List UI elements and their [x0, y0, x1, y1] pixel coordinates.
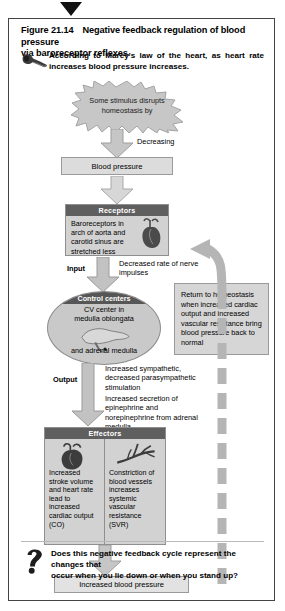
question-text: Does this negative feedback cycle repres…: [51, 548, 265, 581]
effectors-column-heart: Increased stroke volume and heart rate l…: [45, 439, 105, 544]
stimulus-starburst: Some stimulus disrupts homeostasis by: [71, 81, 183, 133]
marey-law-text: According to Marey's law of the heart, a…: [49, 51, 264, 72]
effectors-column-vessel: Constriction of blood vessels increases …: [105, 439, 165, 544]
control-centers-header: Control centers: [48, 292, 160, 304]
stimulus-line1: Some stimulus disrupts: [89, 96, 164, 105]
blood-vessel-icon: [114, 442, 156, 470]
control-centers-line1: CV center in medulla oblongata: [48, 305, 160, 324]
medulla-oblongata-text: medulla oblongata: [74, 314, 134, 323]
effectors-vessel-text: Constriction of blood vessels increases …: [109, 469, 162, 529]
arrow-stimulus-to-bp: [100, 129, 134, 159]
cv-center-text: CV center in: [84, 305, 124, 314]
figure-number: Figure 21.14: [21, 25, 73, 35]
blood-pressure-label: Blood pressure: [62, 158, 172, 174]
stimulus-line2: homeostasis by: [102, 106, 153, 115]
heart-aorta-icon: [139, 217, 165, 251]
feedback-loop-arrow: [164, 139, 284, 584]
receptors-header: Receptors: [66, 205, 168, 216]
question-mark-icon: [21, 546, 49, 574]
question-line2: occur when you lie down or when you stan…: [51, 571, 238, 580]
marey-law-note: According to Marey's law of the heart, a…: [21, 51, 264, 77]
horn-icon: [21, 52, 48, 70]
effectors-panel: Effectors Increased stroke volume and he…: [44, 427, 166, 545]
effectors-columns: Increased stroke volume and heart rate l…: [45, 439, 165, 544]
divider: [21, 541, 264, 542]
stimulus-label: Some stimulus disrupts homeostasis by: [71, 96, 183, 115]
question-block: Does this negative feedback cycle repres…: [21, 546, 264, 592]
figure-frame: Figure 21.14Negative feedback regulation…: [8, 18, 275, 601]
input-label: Input: [67, 264, 85, 273]
control-centers-line3: and adrenal medulla: [48, 346, 160, 355]
effectors-heart-text: Increased stroke volume and heart rate l…: [49, 469, 101, 529]
heart-icon: [56, 442, 94, 470]
question-line1: Does this negative feedback cycle repres…: [51, 549, 236, 569]
effectors-header: Effectors: [45, 428, 165, 439]
receptors-panel: Receptors Baroreceptors in arch of aorta…: [65, 204, 169, 256]
page-marker-triangle-icon: [60, 2, 82, 16]
receptors-body: Baroreceptors in arch of aorta and carot…: [66, 216, 144, 259]
arrow-control-to-effectors: [71, 363, 105, 427]
control-centers-panel: Control centers CV center in medulla obl…: [47, 291, 161, 365]
figure-page: Figure 21.14Negative feedback regulation…: [0, 0, 285, 611]
arrow-bp-to-receptors: [100, 176, 134, 205]
blood-pressure-box: Blood pressure: [61, 157, 173, 175]
arrow-receptors-to-control: [86, 257, 120, 293]
